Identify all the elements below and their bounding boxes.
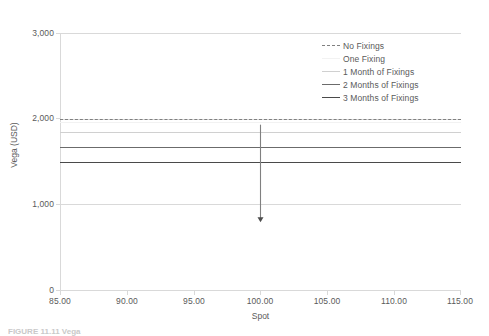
- legend-swatch-line-icon: [322, 93, 340, 103]
- y-axis-title: Vega (USD): [9, 100, 19, 190]
- legend-item-1-month-of-fixings[interactable]: 1 Month of Fixings: [322, 65, 467, 78]
- x-axis-tick: [394, 291, 395, 295]
- legend-swatch-line-icon: [322, 67, 340, 77]
- legend-label: 2 Months of Fixings: [343, 80, 419, 90]
- x-axis-tick: [60, 291, 61, 295]
- vega-vs-spot-chart: 3,000 2,000 1,000 0 Vega (USD) 85.00 90.…: [0, 0, 489, 336]
- x-tick-label: 110.00: [364, 296, 424, 306]
- legend-label: One Fixing: [343, 54, 385, 64]
- x-tick-label: 95.00: [164, 296, 224, 306]
- gridline-3000: [60, 33, 461, 34]
- legend-label: 1 Month of Fixings: [343, 67, 414, 77]
- series-line-3-months-of-fixings: [60, 162, 461, 163]
- x-axis-tick: [194, 291, 195, 295]
- legend-swatch-dashed-icon: [322, 41, 340, 51]
- x-axis-tick: [127, 291, 128, 295]
- series-line-one-fixing: [60, 122, 461, 123]
- x-axis-title: Spot: [60, 311, 461, 321]
- x-tick-label: 100.00: [230, 296, 290, 306]
- legend-item-2-months-of-fixings[interactable]: 2 Months of Fixings: [322, 78, 467, 91]
- series-line-2-months-of-fixings: [60, 147, 461, 148]
- x-tick-label: 90.00: [97, 296, 157, 306]
- y-tick-label: 0: [2, 285, 54, 295]
- x-axis-tick: [460, 291, 461, 295]
- x-axis-tick: [327, 291, 328, 295]
- series-line-no-fixings: [60, 119, 461, 120]
- legend-item-3-months-of-fixings[interactable]: 3 Months of Fixings: [322, 91, 467, 104]
- gridline-1000: [60, 204, 461, 205]
- figure-caption-cutoff: FIGURE 11.11 Vega: [8, 327, 178, 336]
- legend-label: 3 Months of Fixings: [343, 93, 419, 103]
- y-tick-label: 1,000: [2, 199, 54, 209]
- series-line-1-month-of-fixings: [60, 132, 461, 133]
- chart-legend: No Fixings One Fixing 1 Month of Fixings…: [322, 39, 467, 104]
- legend-swatch-line-icon: [322, 80, 340, 90]
- x-axis-tick: [260, 291, 261, 295]
- legend-swatch-line-icon: [322, 54, 340, 64]
- y-tick-label: 3,000: [2, 28, 54, 38]
- gridline-0: [60, 290, 461, 291]
- legend-item-no-fixings[interactable]: No Fixings: [322, 39, 467, 52]
- x-tick-label: 85.00: [30, 296, 90, 306]
- legend-label: No Fixings: [343, 41, 384, 51]
- legend-item-one-fixing[interactable]: One Fixing: [322, 52, 467, 65]
- x-tick-label: 115.00: [430, 296, 489, 306]
- x-tick-label: 105.00: [297, 296, 357, 306]
